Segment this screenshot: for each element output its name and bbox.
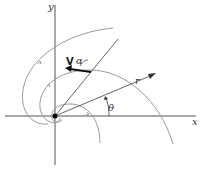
- theta-arrowhead: [104, 96, 108, 100]
- alpha-label: α: [76, 55, 83, 66]
- x-axis-label: x: [192, 116, 198, 127]
- spiral-middle-arc: [40, 70, 173, 144]
- spiral-direction-mark: [86, 112, 89, 115]
- spiral-outer-arc: [22, 28, 113, 124]
- origin-dot: [53, 114, 58, 119]
- spiral-direction-mark: [38, 61, 41, 64]
- spiral-inner-arc: [52, 104, 100, 143]
- velocity-label: V: [66, 56, 74, 67]
- radius-arrowhead: [148, 73, 156, 79]
- theta-label: θ: [108, 102, 114, 113]
- y-axis-label: y: [47, 1, 54, 12]
- spiral-diagram: y x r θ V α: [0, 0, 204, 171]
